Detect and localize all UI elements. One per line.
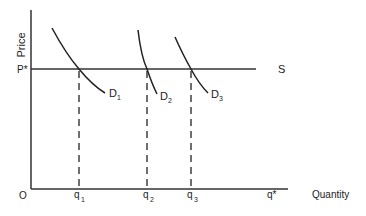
tick-label-q1: q 1 <box>74 189 85 203</box>
svg-text:D: D <box>211 88 219 100</box>
origin-label: O <box>19 190 27 201</box>
svg-text:q*: q* <box>267 189 277 200</box>
svg-text:1: 1 <box>81 196 85 203</box>
svg-text:q: q <box>74 189 80 200</box>
tick-label-qstar: q* <box>267 189 277 200</box>
svg-text:q: q <box>187 189 193 200</box>
x-axis-label: Quantity <box>312 189 349 200</box>
svg-text:3: 3 <box>219 95 223 102</box>
svg-text:2: 2 <box>150 196 154 203</box>
svg-text:2: 2 <box>168 97 172 104</box>
svg-text:3: 3 <box>194 196 198 203</box>
demand-label-1: D 1 <box>109 87 121 101</box>
svg-text:D: D <box>160 90 168 102</box>
demand-label-2: D 2 <box>160 90 172 104</box>
tick-label-q2: q 2 <box>143 189 154 203</box>
y-axis-label: Price <box>15 32 27 57</box>
svg-text:1: 1 <box>117 94 121 101</box>
tick-label-q3: q 3 <box>187 189 198 203</box>
svg-text:q: q <box>143 189 149 200</box>
demand-label-3: D 3 <box>211 88 223 102</box>
svg-text:D: D <box>109 87 117 99</box>
price-level-label: P* <box>17 64 28 75</box>
supply-label: S <box>278 63 285 75</box>
supply-demand-diagram: Price P* S D 1 D 2 D 3 O q 1 q 2 q 3 q* … <box>0 0 366 216</box>
